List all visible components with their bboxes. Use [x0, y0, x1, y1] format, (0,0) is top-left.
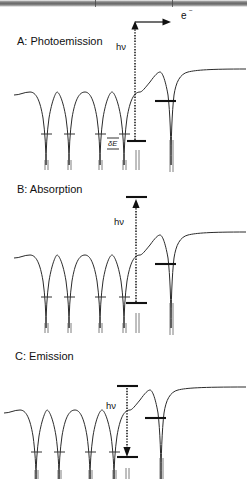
figure-svg: A: Photoemission δE [0, 0, 247, 479]
panel-a-surface-barrier [136, 69, 246, 172]
panel-b-bulk-potential [14, 255, 140, 333]
panel-c-transition-arrow: hν [106, 388, 131, 457]
panel-a-electron-label: e [181, 10, 187, 21]
panel-a-transition-arrow: hν e − [116, 7, 193, 140]
panel-c-photon-label: hν [106, 400, 116, 411]
panel-c-label: C: Emission [15, 350, 74, 362]
panel-a-electron-charge: − [189, 7, 193, 14]
panel-a-photoemission: A: Photoemission δE [14, 7, 246, 172]
panel-b-photon-label: hν [114, 216, 124, 227]
panel-a-photon-label: hν [116, 41, 126, 52]
panel-c-surface-barrier [126, 387, 246, 479]
panel-a-bulk-potential [14, 92, 140, 170]
panel-b-transition-arrow: hν [114, 199, 140, 302]
panel-a-label: A: Photoemission [17, 35, 103, 47]
panel-b-absorption: B: Absorption hν [14, 183, 246, 335]
panel-c-bulk-potential [4, 410, 130, 479]
panel-c-emission: C: Emission hν [4, 350, 246, 479]
panel-b-surface-barrier [136, 232, 246, 335]
panel-a-delta-e-levels: δE [107, 138, 146, 149]
delta-e-label: δE [108, 139, 118, 148]
panel-b-label: B: Absorption [17, 183, 82, 195]
figure-canvas: A: Photoemission δE [0, 0, 247, 479]
